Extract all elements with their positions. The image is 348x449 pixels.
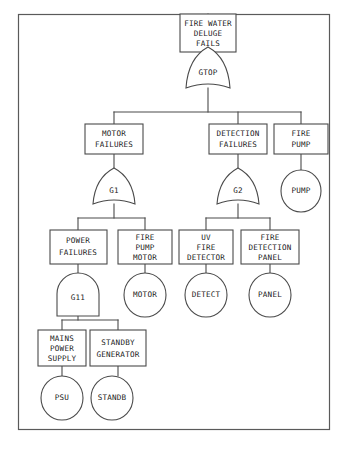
top-event-line-1: FIRE WATER (184, 19, 232, 28)
standby-generator-line-2: GENERATOR (97, 350, 140, 359)
motor-failures-line-1: MOTOR (102, 129, 126, 138)
power-failures-line-2: FAILURES (59, 248, 97, 257)
standby-generator-box (90, 330, 146, 366)
mains-power-supply-line-3: SUPPLY (48, 354, 77, 363)
node-motor-failures[interactable]: MOTOR FAILURES (85, 124, 143, 154)
mains-power-supply-line-1: MAINS (50, 334, 74, 343)
node-gate-gtop[interactable]: GTOP (186, 47, 230, 88)
gate-g11-label: G11 (71, 293, 86, 302)
fire-pump-motor-line-1: FIRE (135, 233, 154, 242)
event-standb-label: STANDB (98, 393, 127, 402)
node-power-failures[interactable]: POWER FAILURES (50, 230, 107, 264)
node-event-psu[interactable]: PSU (41, 376, 83, 420)
node-standby-generator[interactable]: STANDBY GENERATOR (90, 330, 146, 366)
fire-pump-motor-line-2: PUMP (135, 243, 154, 252)
node-detection-failures[interactable]: DETECTION FAILURES (209, 124, 267, 154)
node-gate-g1[interactable]: G1 (93, 168, 135, 204)
event-detect-label: DETECT (192, 290, 221, 299)
node-mains-power-supply[interactable]: MAINS POWER SUPPLY (38, 330, 86, 366)
fire-pump-line-1: FIRE (291, 129, 310, 138)
node-event-pump[interactable]: PUMP (281, 170, 321, 212)
motor-failures-line-2: FAILURES (95, 140, 133, 149)
detection-failures-line-1: DETECTION (217, 129, 260, 138)
node-gate-g2[interactable]: G2 (217, 168, 259, 204)
standby-generator-line-1: STANDBY (101, 338, 135, 347)
fire-detection-panel-line-1: FIRE (260, 233, 279, 242)
event-panel-label: PANEL (258, 290, 282, 299)
event-motor-label: MOTOR (133, 290, 157, 299)
uv-fire-detector-line-2: FIRE (196, 243, 215, 252)
top-event-line-2: DELUGE (194, 29, 223, 38)
fire-pump-motor-line-3: MOTOR (133, 253, 157, 262)
diagram-frame (19, 15, 330, 430)
node-uv-fire-detector[interactable]: UV FIRE DETECTOR (179, 230, 233, 264)
event-psu-label: PSU (55, 393, 70, 402)
fire-detection-panel-line-3: PANEL (258, 253, 282, 262)
mains-power-supply-line-2: POWER (50, 344, 74, 353)
node-gate-g11[interactable]: G11 (57, 273, 99, 316)
fire-detection-panel-line-2: DETECTION (249, 243, 292, 252)
node-top-event[interactable]: FIRE WATER DELUGE FAILS (180, 14, 236, 52)
fault-tree-diagram-page: FIRE WATER DELUGE FAILS GTOP MOTOR FAILU… (0, 0, 348, 449)
node-event-standb[interactable]: STANDB (91, 376, 133, 420)
detection-failures-line-2: FAILURES (219, 140, 257, 149)
fault-tree-canvas: FIRE WATER DELUGE FAILS GTOP MOTOR FAILU… (0, 0, 348, 449)
uv-fire-detector-line-3: DETECTOR (187, 253, 225, 262)
node-fire-detection-panel[interactable]: FIRE DETECTION PANEL (241, 230, 299, 264)
power-failures-line-1: POWER (66, 236, 90, 245)
uv-fire-detector-line-1: UV (201, 233, 211, 242)
gate-g2-label: G2 (233, 186, 243, 195)
node-fire-pump-motor[interactable]: FIRE PUMP MOTOR (118, 230, 172, 264)
event-pump-label: PUMP (291, 186, 310, 195)
node-fire-pump[interactable]: FIRE PUMP (274, 124, 328, 154)
gate-gtop-label: GTOP (198, 68, 217, 77)
gate-g1-label: G1 (109, 186, 119, 195)
node-event-detect[interactable]: DETECT (185, 273, 227, 317)
node-event-motor[interactable]: MOTOR (124, 273, 166, 317)
fire-pump-line-2: PUMP (291, 140, 310, 149)
node-event-panel[interactable]: PANEL (249, 273, 291, 317)
